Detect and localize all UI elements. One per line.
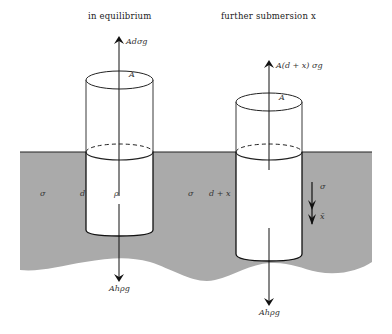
downward-force-label-left: Ahρg — [109, 284, 130, 293]
panel-title-submersion: further submersion x — [221, 11, 316, 21]
body-density-label: ρ — [114, 189, 119, 198]
panel-title-equilibrium: in equilibrium — [88, 11, 152, 21]
displacement-label-top: σ — [320, 182, 325, 191]
buoyancy-diagram: in equilibrium further submersion x Adσg… — [0, 0, 392, 334]
fluid-density-label-right: σ — [188, 189, 193, 198]
area-label-right: A — [279, 93, 285, 102]
upward-force-label-right: A(d + x) σg — [276, 61, 323, 70]
depth-label-left: d — [80, 189, 85, 198]
diagram-canvas — [0, 0, 392, 334]
displacement-label-bottom: x̄ — [320, 212, 325, 221]
depth-label-right: d + x — [209, 189, 230, 198]
area-label-left: A — [129, 70, 135, 79]
downward-force-label-right: Ahρg — [259, 308, 280, 317]
upward-force-label-left: Adσg — [126, 37, 147, 46]
fluid-density-label-left: σ — [40, 189, 45, 198]
